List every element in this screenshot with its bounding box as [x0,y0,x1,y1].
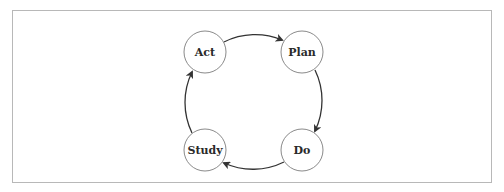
arrow-act-to-plan [224,35,282,42]
node-act-label: Act [194,46,216,59]
node-study-label: Study [187,144,223,157]
node-do-label: Do [294,144,311,157]
node-do: Do [281,129,323,171]
arrow-do-to-study [224,162,284,169]
pdsa-cycle-diagram: Act Plan Do Study [0,0,504,192]
arrow-plan-to-do [315,70,322,131]
arrow-study-to-act [185,72,192,133]
node-study: Study [184,129,226,171]
node-plan: Plan [281,31,323,73]
node-act: Act [184,31,226,73]
node-plan-label: Plan [288,46,316,59]
